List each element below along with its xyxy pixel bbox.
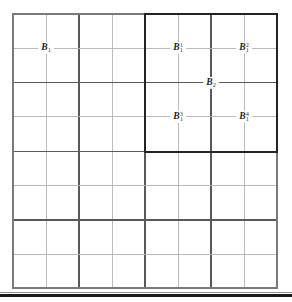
page-edge-rule (0, 293, 292, 296)
label-b2-base: B (206, 77, 212, 87)
label-b1-sup3: B31 (170, 111, 186, 123)
label-b1: B1 (38, 42, 54, 54)
label-b1-sup2-subscript: 1 (246, 48, 249, 53)
label-b2-scripts: 2 (213, 78, 216, 88)
label-b1-sup1-subscript: 1 (180, 48, 183, 53)
label-b2: B2 (203, 77, 219, 89)
label-b1-sup1-scripts: 11 (180, 43, 183, 53)
label-b2-subscript: 2 (213, 83, 216, 88)
label-b1-sup1-base: B (173, 42, 179, 52)
label-b1-sup4-base: B (239, 111, 245, 121)
label-b1-subscript: 1 (48, 48, 51, 53)
label-b1-sup3-subscript: 1 (180, 117, 183, 122)
label-b1-sup4-subscript: 1 (246, 117, 249, 122)
label-b1-sup1: B11 (170, 42, 186, 54)
label-b1-sup2: B21 (236, 42, 252, 54)
label-b1-sup4: B41 (236, 111, 252, 123)
figure-root: B1 B11 B21 B2 B31 B41 (0, 0, 292, 302)
label-b1-sup2-base: B (239, 42, 245, 52)
label-b1-sup2-scripts: 21 (246, 43, 249, 53)
label-b1-sup4-scripts: 41 (246, 112, 249, 122)
label-b1-base: B (41, 42, 47, 52)
label-b1-sup3-scripts: 31 (180, 112, 183, 122)
label-b1-sup3-base: B (173, 111, 179, 121)
label-b1-scripts: 1 (48, 43, 51, 53)
